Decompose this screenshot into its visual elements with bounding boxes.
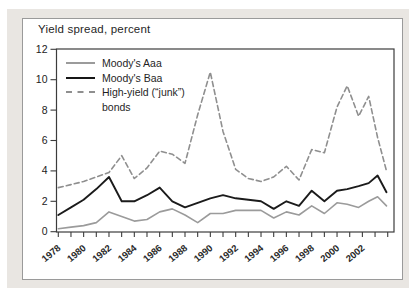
y-tick-label: 0 (42, 225, 48, 237)
x-tick-label: 1988 (166, 242, 189, 264)
baa-line-swatch (66, 77, 95, 79)
legend-label-junk: High-yield (“junk”) bonds (102, 85, 194, 114)
legend-item-junk: High-yield (“junk”) bonds (66, 85, 194, 114)
legend-label-aaa: Moody's Aaa (102, 56, 162, 71)
y-tick-label: 12 (36, 43, 48, 55)
y-tick-label: 10 (36, 73, 48, 85)
chart-legend: Moody's Aaa Moody's Baa High-yield (“jun… (66, 56, 194, 114)
x-tick-label: 1996 (267, 242, 290, 264)
x-tick-label: 1990 (191, 242, 214, 264)
series-line-baa (58, 176, 386, 216)
x-tick-label: 1994 (242, 242, 266, 264)
legend-item-baa: Moody's Baa (66, 71, 194, 86)
x-tick-label: 1984 (115, 242, 139, 264)
legend-label-baa: Moody's Baa (102, 71, 162, 86)
aaa-line-swatch (66, 62, 95, 64)
page-root: { "figure": { "title": "Yield spread, pe… (0, 0, 414, 294)
series-line-aaa (58, 197, 386, 229)
legend-item-aaa: Moody's Aaa (66, 56, 194, 71)
x-tick-label: 1992 (217, 242, 240, 264)
y-tick-label: 2 (42, 195, 48, 207)
y-tick-label: 6 (42, 134, 48, 146)
x-tick-label: 1980 (65, 242, 88, 264)
x-tick-label: 2000 (318, 242, 341, 264)
x-tick-label: 1986 (141, 242, 164, 264)
y-tick-label: 8 (42, 104, 48, 116)
x-tick-label: 1982 (90, 242, 113, 264)
chart-title: Yield spread, percent (38, 23, 150, 35)
x-tick-label: 2002 (343, 242, 366, 264)
yield-spread-plot: 0246810121978198019821984198619881990199… (0, 0, 414, 294)
y-tick-label: 4 (42, 164, 48, 176)
x-tick-label: 1978 (39, 242, 62, 264)
x-tick-label: 1998 (293, 242, 316, 264)
junk-line-swatch (66, 91, 95, 93)
